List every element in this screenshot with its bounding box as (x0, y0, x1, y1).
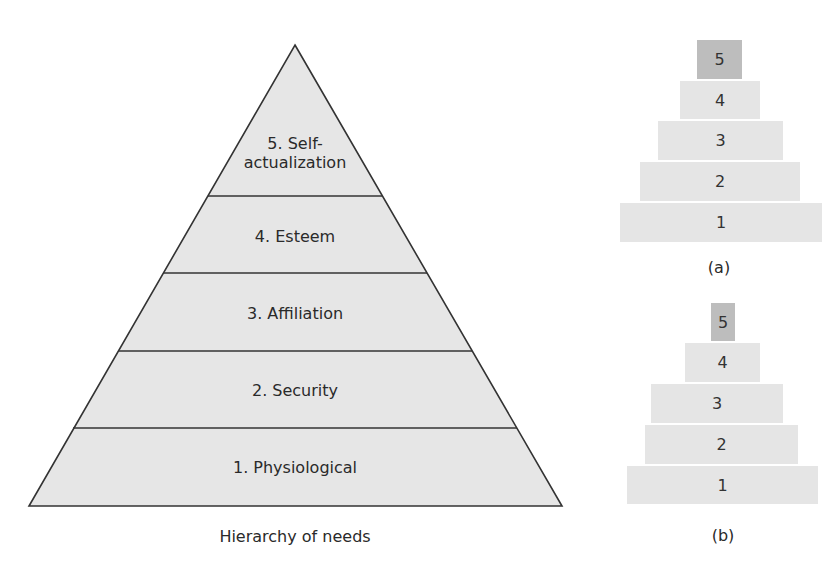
level-3-affiliation-label: 3. Affiliation (247, 304, 343, 323)
pyramid-b-block-1: 1 (627, 466, 818, 504)
pyramid-b-block-3: 3 (651, 384, 783, 423)
pyramid-a-block-3: 3 (658, 121, 783, 160)
pyramid-a-block-5: 5 (697, 40, 742, 79)
pyramid-b-block-2: 2 (645, 425, 798, 464)
pyramid-a-block-2: 2 (640, 162, 800, 201)
level-1-physiological-label: 1. Physiological (233, 458, 357, 477)
pyramid-b-block-5: 5 (711, 303, 735, 341)
pyramid-b-block-4: 4 (685, 343, 760, 382)
pyramid-a-caption: (a) (708, 258, 730, 277)
level-5-label-line1: 5. Self- (244, 134, 347, 153)
level-2-security-label: 2. Security (252, 381, 338, 400)
level-4-esteem-label: 4. Esteem (255, 227, 335, 246)
level-5-label-line2: actualization (244, 153, 347, 172)
main-pyramid-caption: Hierarchy of needs (219, 527, 370, 546)
pyramid-triangle (29, 45, 562, 506)
pyramid-b-caption: (b) (712, 526, 735, 545)
pyramid-a-block-4: 4 (680, 81, 760, 119)
level-5-self-actualization-label: 5. Self- actualization (244, 134, 347, 172)
pyramid-a-block-1: 1 (620, 203, 822, 242)
